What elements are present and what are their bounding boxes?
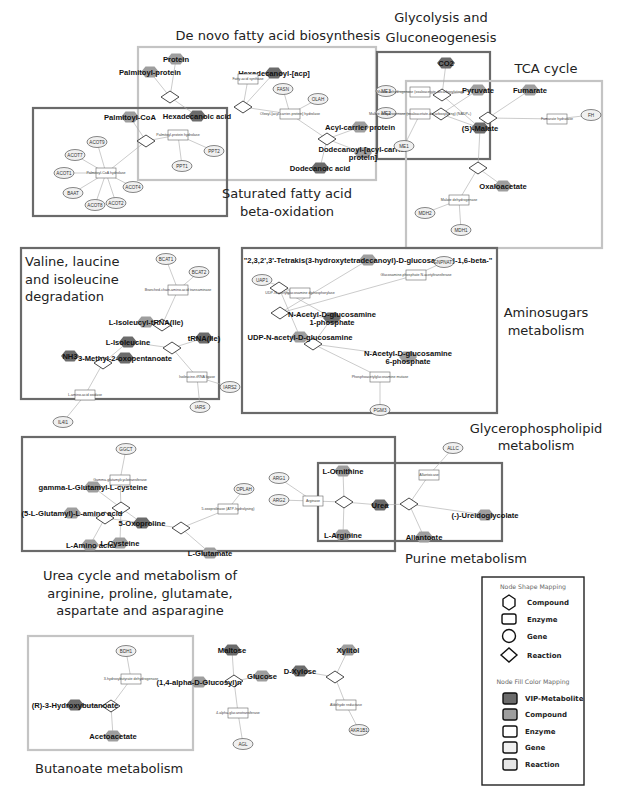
gene-label: OPLAH — [236, 487, 252, 492]
gene-node[interactable]: ACOT7 — [65, 150, 85, 161]
compound-node[interactable]: Palmitoyl-protein — [119, 67, 181, 78]
gene-label: ALLC — [447, 446, 459, 451]
compound-node[interactable]: Dodecanoic acid — [290, 163, 351, 174]
compound-node[interactable]: N-Acetyl-D-glucosamine6-phosphate — [364, 349, 452, 366]
enzyme-label: L-amino-acid oxidase — [68, 393, 102, 397]
enzyme-node[interactable]: Phosphoacetylglucosamine mutase — [352, 372, 409, 382]
reaction-node[interactable] — [326, 671, 344, 683]
compound-node[interactable]: Oxaloacetate — [479, 181, 526, 192]
enzyme-node[interactable]: 5-oxoprolinase (ATP-hydrolysing) — [201, 504, 254, 514]
compound-node[interactable]: UDP-N-acetyl-D-glucosamine — [247, 332, 352, 343]
compound-node[interactable]: Acyl-carrier protein — [325, 122, 395, 133]
compound-node[interactable]: 3-Methyl-2-oxopentanoate — [78, 353, 172, 364]
enzyme-node[interactable]: Palmitoyl-CoA hydrolase — [86, 168, 125, 178]
compound-node[interactable]: NH3 — [61, 351, 79, 362]
enzyme-node[interactable]: Oleoyl-[acyl-carrier-protein] hydrolase — [260, 109, 320, 119]
reaction-node[interactable] — [234, 101, 252, 113]
enzyme-node[interactable]: Palmitoyl-protein hydrolase — [156, 130, 199, 140]
gene-node[interactable]: ARG2 — [269, 495, 289, 506]
gene-node[interactable]: BCAT1 — [156, 254, 176, 265]
compound-node[interactable]: Allantoate — [406, 532, 443, 543]
gene-node[interactable]: MDH1 — [451, 225, 471, 236]
compound-label: Dodecanoic acid — [290, 164, 351, 173]
compound-label: (1,4-alpha-D-Glucosyl)n — [156, 678, 242, 687]
reaction-node[interactable] — [400, 498, 418, 510]
compound-node[interactable]: L-Glutamate — [188, 548, 232, 559]
compound-node[interactable]: "2,3,2',3'-Tetrakis(3-hydroxytetradecano… — [244, 255, 493, 266]
compound-node[interactable]: Hexadecanoic acid — [163, 111, 232, 122]
gene-node[interactable]: BDH1 — [116, 646, 136, 657]
enzyme-node[interactable]: Arginase — [303, 496, 323, 506]
gene-node[interactable]: BAAT — [63, 188, 83, 199]
compound-node[interactable]: Pyruvate — [462, 85, 494, 96]
compound-node[interactable]: (-)-Ureidoglycolate — [451, 510, 518, 521]
gene-node[interactable]: ME1 — [394, 141, 414, 152]
gene-node[interactable]: BCAT2 — [189, 267, 209, 278]
gene-node[interactable]: PGM3 — [370, 405, 390, 416]
enzyme-node[interactable]: Glucosamine-phosphate N-acetyltransferas… — [380, 270, 451, 280]
compound-label: 6-phosphate — [385, 357, 430, 366]
compound-node[interactable]: L-Cysteine — [101, 538, 140, 549]
compound-node[interactable]: L-Arginine — [324, 530, 362, 541]
gene-node[interactable]: AGL — [233, 739, 253, 750]
compound-node[interactable]: N-Acetyl-D-glucosamine1-phosphate — [288, 310, 376, 327]
compound-node[interactable]: Protein — [163, 54, 190, 65]
compound-label: Palmitoyl-CoA — [104, 113, 156, 122]
enzyme-node[interactable]: 4-alpha-glucanotransferase — [216, 708, 260, 718]
enzyme-node[interactable]: Isoleucine-tRNA ligase — [179, 372, 215, 382]
compound-node[interactable]: (S)-Malate — [462, 123, 498, 134]
gene-node[interactable]: ACOT9 — [87, 137, 107, 148]
gene-node[interactable]: PPT2 — [204, 146, 224, 157]
gene-node[interactable]: ACOT2 — [106, 198, 126, 209]
gene-node[interactable]: OLAH — [308, 94, 328, 105]
enzyme-node[interactable]: Malate dehydrogenase — [441, 195, 478, 205]
gene-label: IARS — [195, 405, 206, 410]
gene-node[interactable]: FASN — [273, 84, 293, 95]
reaction-node[interactable] — [172, 522, 190, 534]
enzyme-node[interactable]: Aldehyde reductase — [330, 700, 362, 710]
reaction-node[interactable] — [335, 496, 353, 508]
compound-node[interactable]: Palmitoyl-CoA — [104, 112, 156, 123]
gene-node[interactable]: ALLC — [443, 443, 463, 454]
compound-node[interactable]: Urea — [371, 500, 389, 511]
compound-node[interactable]: L-Isoleucine — [106, 337, 150, 348]
gene-node[interactable]: IL4I1 — [53, 417, 73, 428]
reaction-node[interactable] — [271, 307, 289, 319]
reaction-node[interactable] — [163, 342, 181, 354]
compound-node[interactable]: CO2 — [437, 58, 455, 69]
compound-node[interactable]: Glucose — [247, 671, 277, 682]
gene-node[interactable]: UAP1 — [252, 275, 272, 286]
gene-node[interactable]: IARS — [190, 402, 210, 413]
enzyme-node[interactable]: 3-hydroxybutyrate dehydrogenase — [104, 674, 159, 684]
compound-node[interactable]: Fumarate — [513, 85, 547, 96]
compound-node[interactable]: D-Xylose — [284, 666, 317, 677]
gene-node[interactable]: ARG1 — [269, 473, 289, 484]
compound-node[interactable]: tRNA(Ile) — [188, 333, 221, 344]
compound-node[interactable]: Maltose — [218, 645, 246, 656]
gene-label: ARG2 — [273, 498, 286, 503]
gene-node[interactable]: FH — [581, 110, 601, 121]
enzyme-node[interactable]: Fumarate hydratase — [541, 114, 573, 124]
gene-label: ACOT4 — [125, 185, 141, 190]
gene-node[interactable]: MDH2 — [415, 208, 435, 219]
gene-node[interactable]: AKR1B1 — [349, 725, 369, 736]
compound-node[interactable]: Xylitol — [337, 645, 360, 656]
compound-node[interactable]: L-Ornithine — [323, 466, 364, 477]
gene-node[interactable]: IARS2 — [220, 382, 240, 393]
gene-node[interactable]: OPLAH — [234, 484, 254, 495]
enzyme-node[interactable]: Branched-chain-amino-acid transaminase — [145, 285, 212, 295]
reaction-node[interactable] — [137, 135, 155, 147]
gene-node[interactable]: GGCT — [116, 444, 136, 455]
gene-node[interactable]: ACOT4 — [123, 182, 143, 193]
compound-node[interactable]: gamma-L-Glutamyl-L-cysteine — [39, 482, 148, 493]
gene-node[interactable]: ACOT1 — [54, 168, 74, 179]
compound-node[interactable]: (R)-3-Hydroxybutanoate — [32, 700, 119, 711]
compound-node[interactable]: (5-L-Glutamyl)-L-amino acid — [22, 508, 123, 519]
compound-node[interactable]: (1,4-alpha-D-Glucosyl)n — [156, 677, 242, 688]
compound-node[interactable]: Acetoacetate — [89, 731, 136, 742]
compound-node[interactable]: 5-Oxoproline — [119, 518, 166, 529]
compound-node[interactable]: L-Isoleucyl-tRNA(Ile) — [109, 317, 184, 328]
gene-node[interactable]: PPT1 — [172, 161, 192, 172]
gene-node[interactable]: ACOT8 — [85, 200, 105, 211]
enzyme-node[interactable]: Allantoicase — [419, 470, 439, 480]
